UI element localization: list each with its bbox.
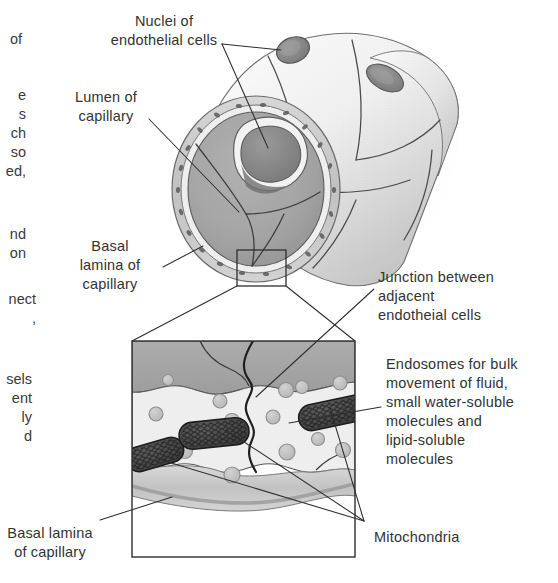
column-text-fragment-4: nect , <box>0 290 36 328</box>
column-text-fragment-2: e s ch so ed, <box>0 86 26 181</box>
label-lumen-of-capillary: Lumen of capillary <box>58 88 154 126</box>
leader-basal-lamina-top <box>163 246 203 267</box>
label-endosomes-for-bulk-movement: Endosomes for bulk movement of fluid, sm… <box>386 355 558 469</box>
label-junction-between-adjacent-endothelial-cells: Junction between adjacent endotheial cel… <box>378 268 556 325</box>
column-text-fragment-1: of <box>0 30 22 49</box>
magnification-connector-lines <box>132 286 355 341</box>
label-nuclei-of-endothelial-cells: Nuclei of endothelial cells <box>103 12 225 50</box>
column-text-fragment-5: sels ent ly d <box>0 370 32 446</box>
label-basal-lamina-of-capillary-bottom: Basal lamina of capillary <box>0 524 100 562</box>
leader-nuclei-surface <box>222 44 281 50</box>
capillary-tube-3d <box>170 20 480 300</box>
label-basal-lamina-of-capillary-top: Basal lamina of capillary <box>60 237 160 294</box>
inset-detail-panel <box>124 341 372 557</box>
label-mitochondria: Mitochondria <box>374 528 514 547</box>
column-text-fragment-3: nd on <box>0 225 26 263</box>
